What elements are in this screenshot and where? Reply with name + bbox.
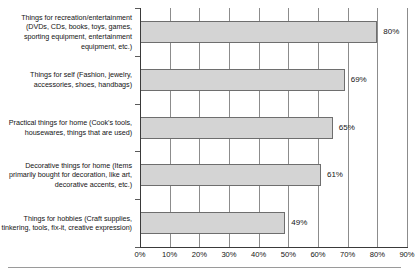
x-axis-line — [140, 247, 408, 248]
bar — [140, 212, 285, 234]
bar-value-label: 49% — [291, 218, 307, 228]
x-axis-tick-label: 50% — [273, 250, 303, 260]
footer-divider — [8, 267, 401, 268]
y-axis-line — [140, 8, 141, 248]
y-axis-tick — [135, 247, 140, 248]
gridline-80 — [377, 8, 378, 247]
bar — [140, 164, 321, 186]
category-label-column: Things for recreation/entertainment (DVD… — [0, 0, 136, 240]
category-label: Things for hobbies (Craft supplies, tink… — [0, 214, 132, 233]
category-label: Practical things for home (Cook's tools,… — [0, 118, 132, 137]
y-axis-tick — [135, 151, 140, 152]
x-axis-tick-label: 60% — [303, 250, 333, 260]
plot-area: 80%69%65%61%49% — [140, 8, 407, 240]
bar-value-label: 80% — [383, 27, 399, 37]
y-axis-tick — [135, 104, 140, 105]
x-axis-tick-label: 20% — [184, 250, 214, 260]
bar-chart: Things for recreation/entertainment (DVD… — [0, 0, 417, 276]
y-axis-tick — [135, 199, 140, 200]
x-axis-tick-label: 10% — [155, 250, 185, 260]
y-axis-tick — [135, 8, 140, 9]
category-label: Things for recreation/entertainment (DVD… — [0, 13, 132, 51]
x-axis-tick-label: 80% — [362, 250, 392, 260]
bar-value-label: 65% — [339, 123, 355, 133]
category-label: Things for self (Fashion, jewelry, acces… — [0, 70, 132, 89]
bar-value-label: 69% — [351, 75, 367, 85]
x-axis-tick-label: 30% — [214, 250, 244, 260]
bar — [140, 69, 345, 91]
gridline-90 — [407, 8, 408, 247]
x-axis-tick-label: 90% — [392, 250, 417, 260]
x-axis-tick-label: 40% — [244, 250, 274, 260]
x-axis-tick-label: 0% — [125, 250, 155, 260]
bar-value-label: 61% — [327, 170, 343, 180]
bar — [140, 21, 377, 43]
x-axis-tick-label: 70% — [333, 250, 363, 260]
bar — [140, 117, 333, 139]
category-label: Decorative things for home (Items primar… — [0, 161, 132, 190]
y-axis-tick — [135, 56, 140, 57]
